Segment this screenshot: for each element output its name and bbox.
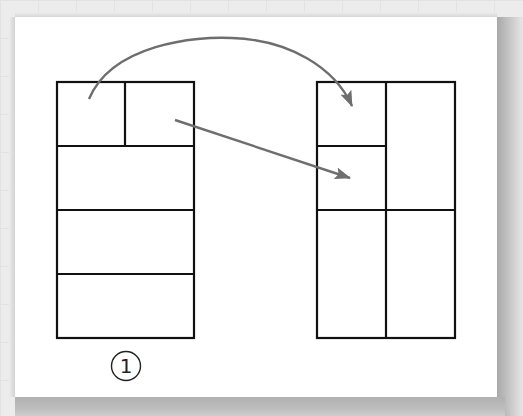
layout-diagram: 1 (0, 0, 523, 416)
curved-arrow (89, 38, 352, 106)
right-layout (317, 82, 455, 338)
straight-arrow (175, 120, 350, 178)
left-layout (57, 82, 194, 338)
figure-label: 1 (112, 352, 141, 381)
figure-label-number: 1 (120, 354, 133, 378)
